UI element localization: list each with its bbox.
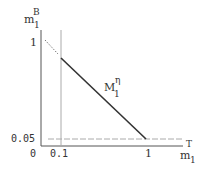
- tick-y-0.05: 0.05: [11, 134, 35, 144]
- x-axis-label: m T 1: [180, 150, 190, 161]
- tick-x-1: 1: [145, 148, 152, 159]
- x-axis-subscript: 1: [190, 156, 196, 165]
- dotted-extension: [45, 40, 58, 54]
- curve-label: M η 1: [104, 82, 115, 93]
- tick-x-0.1: 0.1: [50, 149, 68, 159]
- curve-label-superscript: η: [115, 76, 120, 85]
- curve-label-subscript: 1: [114, 90, 120, 99]
- x-axis-superscript: T: [186, 140, 192, 149]
- x-axis-symbol: m: [180, 149, 190, 162]
- tick-y-1: 1: [30, 37, 37, 48]
- m1-eta-line: [61, 58, 146, 139]
- y-axis-superscript: B: [33, 8, 40, 17]
- tick-origin: 0: [30, 149, 36, 159]
- y-axis-label: m B 1: [24, 14, 34, 25]
- y-axis-subscript: 1: [34, 21, 40, 30]
